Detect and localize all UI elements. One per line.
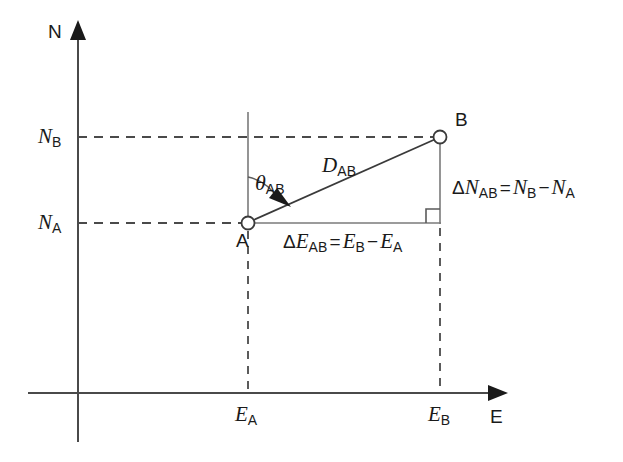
delta-north-rhs2-subscript: A xyxy=(566,185,576,201)
delta-east-rhs2-symbol: E xyxy=(380,229,393,253)
delta-east-lhs-subscript: AB xyxy=(309,239,328,255)
delta-north-rhs1-symbol: N xyxy=(513,175,527,199)
point-marker-b xyxy=(434,131,447,144)
tick-label-eb: EB xyxy=(428,404,450,425)
north-axis-arrowhead xyxy=(70,20,86,40)
delta-east-lhs-symbol: E xyxy=(296,229,309,253)
tick-label-ea-symbol: E xyxy=(235,402,248,426)
tick-label-ea: EA xyxy=(235,404,257,425)
tick-label-eb-subscript: B xyxy=(441,412,451,428)
tick-label-nb-subscript: B xyxy=(52,134,62,150)
tick-label-na: NA xyxy=(38,212,62,233)
distance-label-dab: DAB xyxy=(322,155,356,176)
tick-label-ea-subscript: A xyxy=(248,412,258,428)
north-axis-label: N xyxy=(48,22,62,41)
bearing-label-symbol: θ xyxy=(255,170,266,195)
delta-north-lhs-symbol: N xyxy=(465,175,479,199)
tick-label-nb: NB xyxy=(38,126,62,147)
tick-label-na-subscript: A xyxy=(52,220,62,236)
delta-north-equals: = xyxy=(498,177,513,198)
tick-label-eb-symbol: E xyxy=(428,402,441,426)
delta-east-rhs1-symbol: E xyxy=(343,229,356,253)
delta-east-minus: − xyxy=(365,231,380,252)
delta-north-equation: ΔNAB=NB−NA xyxy=(452,177,575,198)
delta-north-rhs2-symbol: N xyxy=(552,175,566,199)
point-label-b: B xyxy=(455,110,468,129)
bearing-label-subscript: AB xyxy=(266,181,285,197)
tick-label-na-symbol: N xyxy=(38,210,52,234)
point-marker-a xyxy=(242,217,255,230)
distance-label-subscript: AB xyxy=(337,163,356,179)
delta-east-delta-glyph: Δ xyxy=(283,231,296,252)
east-axis-label: E xyxy=(490,407,503,426)
distance-label-symbol: D xyxy=(322,153,337,177)
right-angle-marker xyxy=(426,209,440,223)
delta-east-rhs2-subscript: A xyxy=(393,239,403,255)
delta-east-equation: ΔEAB=EB−EA xyxy=(283,231,403,252)
delta-north-lhs-subscript: AB xyxy=(479,185,498,201)
point-label-a: A xyxy=(236,231,249,250)
delta-east-rhs1-subscript: B xyxy=(356,239,366,255)
delta-east-equals: = xyxy=(328,231,343,252)
east-axis-arrowhead xyxy=(488,385,508,401)
survey-bearing-diagram: N E NB NA EA EB A B DAB θAB ΔNAB=NB−NA Δ… xyxy=(0,0,623,462)
delta-north-minus: − xyxy=(536,177,551,198)
delta-north-delta-glyph: Δ xyxy=(452,177,465,198)
tick-label-nb-symbol: N xyxy=(38,124,52,148)
delta-north-rhs1-subscript: B xyxy=(527,185,537,201)
bearing-label-theta-ab: θAB xyxy=(255,172,285,194)
